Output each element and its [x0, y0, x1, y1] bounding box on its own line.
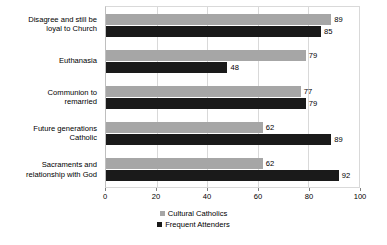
legend-item[interactable]: Cultural Catholics — [160, 208, 228, 219]
gridline — [359, 7, 360, 187]
bar-group: 8985 — [106, 7, 359, 43]
legend-item[interactable]: Frequent Attenders — [157, 219, 230, 230]
x-tick-label: 60 — [254, 192, 262, 201]
bar-row: 89 — [106, 134, 359, 145]
category-label: Disagree and still beloyal to Church — [0, 6, 101, 42]
category-label: Sacraments andrelationship with God — [0, 152, 101, 188]
category-label-text: Future generationsCatholic — [33, 124, 97, 143]
legend-label: Cultural Catholics — [168, 208, 228, 219]
category-label: Communion toremarried — [0, 79, 101, 115]
x-tick-mark — [360, 188, 361, 191]
x-tick-mark — [156, 188, 157, 191]
bar[interactable] — [106, 50, 306, 61]
bar-row: 85 — [106, 26, 359, 37]
bar[interactable] — [106, 14, 331, 25]
bar[interactable] — [106, 170, 339, 181]
x-tick-mark — [258, 188, 259, 191]
x-tick-mark — [309, 188, 310, 191]
bar[interactable] — [106, 134, 331, 145]
bar-row: 89 — [106, 14, 359, 25]
bar-value-label: 89 — [334, 14, 342, 25]
x-tick-label: 80 — [305, 192, 313, 201]
bar[interactable] — [106, 62, 227, 73]
legend-swatch-icon — [157, 222, 162, 227]
category-label-text: Communion toremarried — [48, 88, 97, 107]
chart-legend: Cultural CatholicsFrequent Attenders — [0, 208, 387, 230]
bar-group: 7948 — [106, 43, 359, 79]
bar-value-label: 79 — [309, 50, 317, 61]
bar-row: 92 — [106, 170, 359, 181]
bar[interactable] — [106, 86, 301, 97]
category-label-text: Sacraments andrelationship with God — [26, 160, 97, 179]
bar-group: 6292 — [106, 151, 359, 187]
x-tick-label: 100 — [354, 192, 367, 201]
x-tick-label: 20 — [152, 192, 160, 201]
category-label-text: Disagree and still beloyal to Church — [28, 15, 97, 34]
x-tick-mark — [105, 188, 106, 191]
bar-value-label: 85 — [324, 26, 332, 37]
bar[interactable] — [106, 26, 321, 37]
legend-swatch-icon — [160, 211, 165, 216]
category-label: Future generationsCatholic — [0, 115, 101, 151]
bar-value-label: 62 — [266, 158, 274, 169]
bar-groups: 89857948777962896292 — [106, 7, 359, 187]
bar[interactable] — [106, 158, 263, 169]
bar[interactable] — [106, 122, 263, 133]
bar-row: 79 — [106, 50, 359, 61]
bar-row: 48 — [106, 62, 359, 73]
bar-group: 6289 — [106, 115, 359, 151]
bar-row: 79 — [106, 98, 359, 109]
category-label-text: Euthanasia — [59, 56, 97, 66]
x-tick-label: 0 — [103, 192, 107, 201]
bar-row: 62 — [106, 122, 359, 133]
x-tick-label: 40 — [203, 192, 211, 201]
bar[interactable] — [106, 98, 306, 109]
bar-value-label: 48 — [230, 62, 238, 73]
bar-value-label: 62 — [266, 122, 274, 133]
category-axis-labels: Disagree and still beloyal to ChurchEuth… — [0, 6, 101, 188]
bar-value-label: 77 — [304, 86, 312, 97]
bar-chart: Disagree and still beloyal to ChurchEuth… — [0, 0, 387, 245]
x-axis: 020406080100 — [105, 188, 360, 204]
bar-group: 7779 — [106, 79, 359, 115]
x-tick-mark — [207, 188, 208, 191]
bar-row: 77 — [106, 86, 359, 97]
plot-area: 89857948777962896292 — [105, 6, 360, 188]
bar-value-label: 89 — [334, 134, 342, 145]
category-label: Euthanasia — [0, 42, 101, 78]
bar-value-label: 79 — [309, 98, 317, 109]
bar-row: 62 — [106, 158, 359, 169]
legend-label: Frequent Attenders — [165, 219, 230, 230]
bar-value-label: 92 — [342, 170, 350, 181]
